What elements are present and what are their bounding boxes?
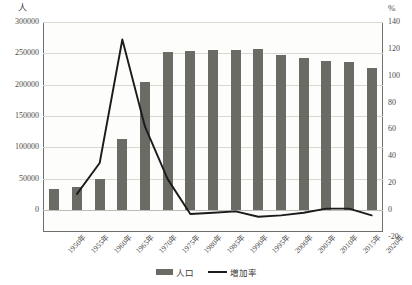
x-axis-tick-labels: 1950年1955年1960年1965年1970年1975年1980年1985年… [43, 232, 383, 266]
x-tick-label: 1970年 [157, 234, 178, 255]
x-tick-label: 1950年 [67, 234, 88, 255]
left-tick-label: 300000 [0, 18, 39, 26]
population-growth-chart: 人 % 050000100000150000200000250000300000… [0, 0, 412, 285]
right-tick-label: 100 [388, 72, 412, 80]
x-tick-label: 1995年 [271, 234, 292, 255]
right-tick-label: 40 [388, 152, 412, 160]
x-tick-label: 1980年 [203, 234, 224, 255]
right-tick-label: 140 [388, 18, 412, 26]
line-series-growth-rate [43, 22, 383, 232]
x-tick-label: 1965年 [135, 234, 156, 255]
x-tick-label: 2005年 [316, 234, 337, 255]
left-tick-label: 250000 [0, 49, 39, 57]
chart-legend: 人口 増加率 [0, 266, 412, 278]
x-tick-label: 1960年 [112, 234, 133, 255]
left-tick-label: 50000 [0, 175, 39, 183]
right-tick-label: 80 [388, 99, 412, 107]
legend-label-population: 人口 [176, 266, 194, 278]
x-tick-label: 1955年 [89, 234, 110, 255]
x-tick-label: 2015年 [361, 234, 382, 255]
legend-item-population: 人口 [156, 266, 194, 278]
x-tick-label: 2010年 [339, 234, 360, 255]
right-tick-label: 0 [388, 206, 412, 214]
bar-swatch-icon [156, 269, 173, 275]
right-tick-label: 120 [388, 45, 412, 53]
left-tick-label: 100000 [0, 143, 39, 151]
right-tick-label: 60 [388, 125, 412, 133]
right-axis-unit-label: % [388, 4, 396, 13]
left-tick-label: 0 [0, 206, 39, 214]
legend-label-growth-rate: 増加率 [230, 266, 257, 278]
left-tick-label: 150000 [0, 112, 39, 120]
x-tick-label: 1975年 [180, 234, 201, 255]
growth-rate-polyline [77, 39, 372, 216]
right-tick-label: 20 [388, 179, 412, 187]
line-swatch-icon [208, 271, 227, 273]
left-axis-unit-label: 人 [18, 4, 27, 13]
x-tick-label: 1990年 [248, 234, 269, 255]
x-tick-label: 2000年 [293, 234, 314, 255]
left-tick-label: 200000 [0, 81, 39, 89]
legend-item-growth-rate: 増加率 [208, 266, 257, 278]
x-tick-label: 1985年 [225, 234, 246, 255]
